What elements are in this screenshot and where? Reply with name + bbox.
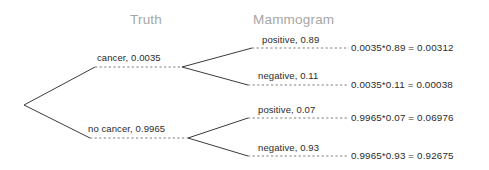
result-expression-no-cancer-negative: 0.9965*0.93 = 0.92675 — [351, 150, 454, 161]
branch-label-no-cancer-negative: negative, 0.93 — [258, 142, 319, 153]
edge-nocancer-to-positive — [188, 118, 248, 138]
edge-root-to-nocancer — [24, 105, 90, 138]
result-expression-cancer-negative: 0.0035*0.11 = 0.00038 — [351, 79, 453, 90]
column-header-truth: Truth — [130, 12, 162, 27]
branch-label-cancer-negative: negative, 0.11 — [258, 70, 318, 81]
probability-tree-diagram: Truth Mammogram cancer, 0.0035 no cancer… — [0, 0, 489, 170]
edge-nocancer-to-negative — [188, 138, 248, 156]
edge-root-to-cancer — [24, 67, 95, 105]
edge-cancer-to-negative — [182, 67, 248, 85]
branch-label-no-cancer-positive: positive, 0.07 — [258, 104, 315, 115]
branch-label-cancer-positive: positive, 0.89 — [262, 34, 319, 45]
result-expression-cancer-positive: 0.0035*0.89 = 0.00312 — [351, 42, 454, 53]
result-expression-no-cancer-positive: 0.9965*0.07 = 0.06976 — [351, 112, 454, 123]
column-header-mammogram: Mammogram — [253, 12, 334, 27]
branch-label-cancer: cancer, 0.0035 — [97, 52, 161, 63]
edge-cancer-to-positive — [182, 48, 252, 67]
branch-label-no-cancer: no cancer, 0.9965 — [88, 123, 165, 134]
